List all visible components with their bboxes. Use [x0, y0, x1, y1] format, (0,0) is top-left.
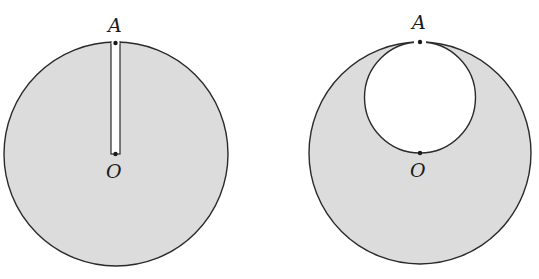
label-o: O [106, 160, 122, 182]
radial-slot [111, 42, 120, 154]
circular-hole [365, 42, 476, 153]
label-a: A [410, 11, 426, 33]
diagram-canvas: A O A O [0, 0, 539, 279]
point-o-dot [113, 152, 117, 156]
point-a-dot [418, 40, 422, 44]
point-o-dot [418, 151, 422, 155]
point-a-dot [113, 41, 117, 45]
label-a: A [106, 14, 122, 36]
label-o: O [410, 159, 426, 181]
figure-left-slotted-disk: A O [4, 14, 228, 266]
figure-right-holed-disk: A O [309, 11, 531, 264]
